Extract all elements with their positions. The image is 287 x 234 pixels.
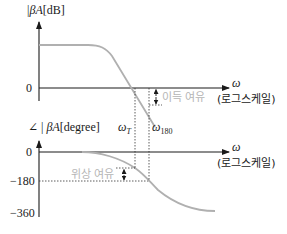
phase-tick-minus-180: −180	[10, 174, 35, 188]
phase-margin-label: 위상 여유	[71, 168, 115, 181]
omega-t-label: ωT	[118, 120, 131, 136]
magnitude-curve	[39, 45, 155, 127]
magnitude-tick-zero: 0	[26, 81, 32, 95]
phase-plot	[39, 141, 229, 217]
gain-margin-label: 이득 여유	[162, 91, 206, 104]
omega-180-label: ω180	[152, 120, 172, 136]
bode-plot-canvas: |βA[dB] 0 ω (로그스케일) 이득 여유 ∠ | βA[degree]…	[0, 0, 287, 234]
magnitude-log-scale-label: (로그스케일)	[217, 92, 276, 106]
magnitude-x-label: ω	[232, 76, 240, 90]
magnitude-plot	[39, 22, 229, 127]
magnitude-y-label: |βA[dB]	[27, 3, 65, 17]
phase-x-label: ω	[232, 140, 240, 154]
phase-curve	[82, 152, 215, 211]
bode-plot-diagram: |βA[dB] 0 ω (로그스케일) 이득 여유 ∠ | βA[degree]…	[0, 0, 287, 234]
phase-log-scale-label: (로그스케일)	[217, 156, 276, 170]
phase-tick-zero: 0	[26, 145, 32, 159]
phase-y-label: ∠ | βA[degree]	[28, 120, 100, 134]
phase-tick-minus-360: −360	[10, 206, 35, 220]
